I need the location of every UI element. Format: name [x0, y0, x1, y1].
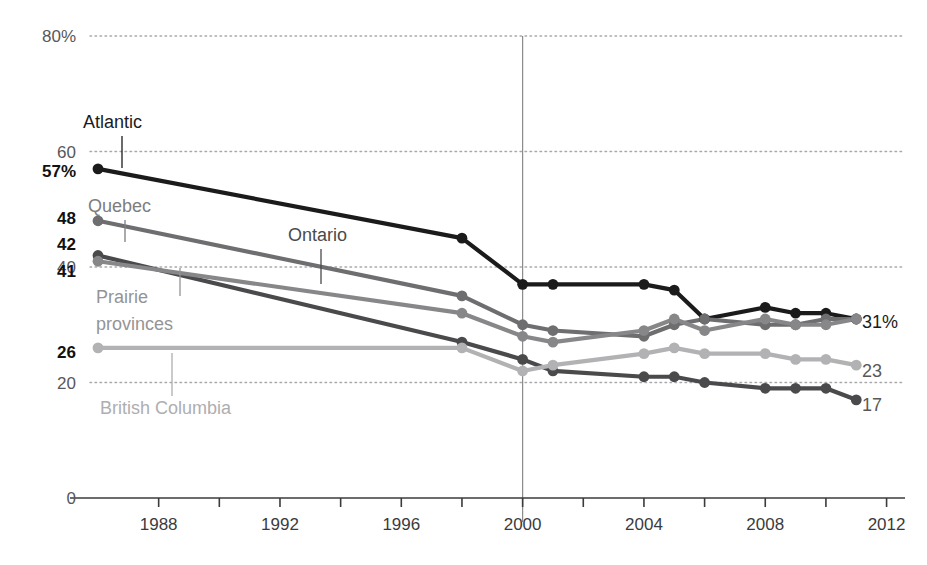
end-value-label: 17	[862, 395, 882, 415]
series-label-quebec: Quebec	[88, 196, 151, 216]
data-point	[639, 325, 650, 336]
data-point	[669, 371, 680, 382]
data-point	[790, 383, 801, 394]
x-tick-label-2008: 2008	[746, 515, 784, 534]
data-point	[851, 360, 862, 371]
series-label-british-columbia: British Columbia	[100, 398, 232, 418]
data-point	[790, 354, 801, 365]
data-point	[760, 302, 771, 313]
start-value-label: 26	[57, 343, 76, 362]
data-point	[548, 337, 559, 348]
x-tick-label-1992: 1992	[261, 515, 299, 534]
data-point	[699, 377, 710, 388]
data-point	[457, 290, 468, 301]
start-value-label: 42	[57, 235, 76, 254]
end-value-label: 23	[862, 361, 882, 381]
data-point	[93, 163, 104, 174]
series-lines-group	[98, 169, 856, 400]
data-point	[821, 354, 832, 365]
chart-canvas: 80%6040200 1988199219962000200420082012 …	[0, 0, 927, 565]
y-tick-label-20: 20	[57, 374, 76, 393]
data-point	[457, 233, 468, 244]
x-tick-label-2004: 2004	[625, 515, 663, 534]
x-axis-tick-labels: 1988199219962000200420082012	[140, 515, 906, 534]
x-axis	[70, 498, 905, 507]
data-point	[790, 308, 801, 319]
data-point	[93, 256, 104, 267]
data-point	[790, 319, 801, 330]
start-value-label: 57%	[42, 162, 76, 181]
data-point	[548, 279, 559, 290]
start-value-label: 48	[57, 209, 76, 228]
series-points-group	[93, 163, 862, 405]
data-point	[517, 319, 528, 330]
series-label-prairie-provinces-line2: provinces	[96, 314, 173, 334]
data-point	[517, 366, 528, 377]
data-point	[639, 371, 650, 382]
series-label-prairie-provinces: Prairie	[96, 287, 148, 307]
data-point	[760, 314, 771, 325]
data-point	[548, 325, 559, 336]
data-point	[548, 360, 559, 371]
data-point	[517, 279, 528, 290]
data-point	[699, 348, 710, 359]
start-value-label: 41	[57, 262, 76, 281]
x-tick-label-1988: 1988	[140, 515, 178, 534]
data-point	[760, 348, 771, 359]
data-point	[851, 314, 862, 325]
data-point	[821, 319, 832, 330]
data-point	[821, 383, 832, 394]
x-tick-label-2000: 2000	[504, 515, 542, 534]
data-point	[457, 342, 468, 353]
end-value-labels-group: 31%2317	[862, 312, 898, 415]
series-label-ontario: Ontario	[288, 225, 347, 245]
data-point	[669, 342, 680, 353]
data-point	[93, 215, 104, 226]
data-point	[669, 314, 680, 325]
x-tick-label-2012: 2012	[868, 515, 906, 534]
data-point	[639, 279, 650, 290]
data-point	[517, 331, 528, 342]
gridlines-group	[90, 36, 905, 383]
series-line-4	[98, 348, 856, 371]
data-point	[457, 308, 468, 319]
end-value-label: 31%	[862, 312, 898, 332]
x-tick-label-1996: 1996	[382, 515, 420, 534]
data-point	[851, 394, 862, 405]
series-label-atlantic: Atlantic	[83, 112, 142, 132]
start-value-labels-group: 57%48424126	[42, 162, 76, 362]
data-point	[93, 342, 104, 353]
y-tick-label-0: 0	[67, 489, 76, 508]
data-point	[669, 285, 680, 296]
line-chart: 80%6040200 1988199219962000200420082012 …	[0, 0, 927, 565]
data-point	[760, 383, 771, 394]
data-point	[699, 325, 710, 336]
data-point	[699, 314, 710, 325]
y-tick-label-60: 60	[57, 143, 76, 162]
data-point	[517, 354, 528, 365]
y-tick-label-80: 80%	[42, 27, 76, 46]
data-point	[639, 348, 650, 359]
